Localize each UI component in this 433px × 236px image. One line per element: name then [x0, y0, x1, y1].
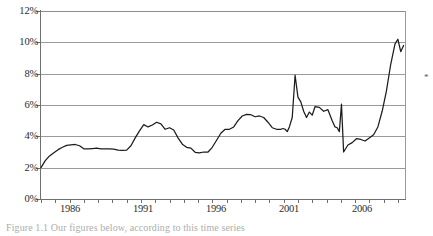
- series-canvas: [0, 0, 433, 236]
- series-line-rate: [41, 39, 404, 167]
- figure-container: 12% 10% 8% 6% 4% 2% 0% 1986 1991 1996 20…: [0, 0, 433, 236]
- figure-caption: Figure 1.1 Our figures below, according …: [6, 222, 426, 233]
- margin-asterisk-mark: *: [424, 72, 429, 82]
